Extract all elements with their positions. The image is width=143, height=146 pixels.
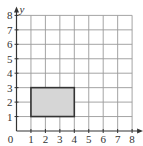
y-tick-label: 7 bbox=[7, 24, 13, 36]
x-tick-label: 8 bbox=[129, 133, 135, 145]
y-tick-label: 2 bbox=[7, 96, 13, 108]
x-tick-label: 7 bbox=[115, 133, 121, 145]
y-tick-label: 1 bbox=[7, 111, 13, 123]
y-tick-label: 8 bbox=[7, 9, 13, 21]
x-tick-label: 4 bbox=[72, 133, 78, 145]
x-tick-label: 5 bbox=[86, 133, 92, 145]
x-tick-label: 1 bbox=[28, 133, 34, 145]
x-tick-label: 6 bbox=[100, 133, 106, 145]
x-axis-arrow-icon bbox=[137, 129, 143, 134]
y-tick-label: 5 bbox=[7, 53, 13, 65]
y-axis-arrow-icon bbox=[14, 6, 19, 12]
coordinate-grid: 12345678123456780xy bbox=[0, 0, 143, 146]
y-tick-label: 4 bbox=[7, 67, 13, 79]
y-tick-label: 3 bbox=[7, 82, 13, 94]
origin-label: 0 bbox=[8, 133, 14, 145]
x-tick-label: 2 bbox=[43, 133, 49, 145]
shaded-rectangle bbox=[31, 88, 74, 117]
x-tick-label: 3 bbox=[57, 133, 63, 145]
tick-labels: 12345678123456780xy bbox=[7, 3, 143, 145]
y-axis-label: y bbox=[19, 3, 25, 15]
y-tick-label: 6 bbox=[7, 38, 13, 50]
